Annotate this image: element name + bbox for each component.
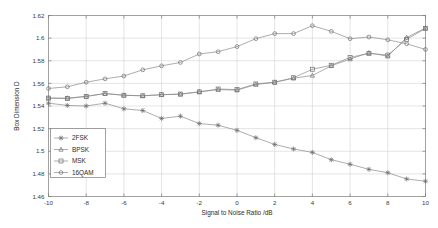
chart-legend[interactable]: 2FSKBPSKMSK16QAM <box>51 129 106 178</box>
x-tick-label: 2 <box>273 199 277 206</box>
y-tick-label: 1.62 <box>32 12 45 19</box>
x-tick-label: -4 <box>159 199 165 206</box>
legend-item-label: MSK <box>72 157 87 164</box>
figure-container: -10-8-6-4-20246810 1.461.481.51.521.541.… <box>0 0 438 228</box>
x-tick-label: -10 <box>44 199 54 206</box>
legend-item-label: BPSK <box>72 146 90 153</box>
x-tick-label: -8 <box>83 199 89 206</box>
y-axis-title: Box Dimension D <box>13 81 20 131</box>
line-chart: -10-8-6-4-20246810 1.461.481.51.521.541.… <box>0 0 438 228</box>
y-axis-tick-labels: 1.461.481.51.521.541.561.581.61.62 <box>32 12 45 200</box>
legend-item-label: 16QAM <box>72 169 94 177</box>
y-tick-label: 1.5 <box>36 147 45 154</box>
y-tick-label: 1.6 <box>36 34 45 41</box>
x-axis-title: Signal to Noise Ratio /dB <box>201 209 272 217</box>
legend-item-label: 2FSK <box>72 134 89 141</box>
x-tick-label: 10 <box>422 199 429 206</box>
x-tick-label: -6 <box>121 199 127 206</box>
y-tick-label: 1.56 <box>32 80 45 87</box>
y-tick-label: 1.46 <box>32 193 45 200</box>
y-tick-label: 1.54 <box>32 102 45 109</box>
x-tick-label: 4 <box>311 199 315 206</box>
y-tick-label: 1.48 <box>32 170 45 177</box>
x-tick-label: 0 <box>235 199 239 206</box>
x-tick-label: 8 <box>386 199 390 206</box>
x-axis-tick-labels: -10-8-6-4-20246810 <box>44 199 429 206</box>
x-tick-label: 6 <box>348 199 352 206</box>
x-tick-label: -2 <box>197 199 203 206</box>
y-tick-label: 1.58 <box>32 57 45 64</box>
y-tick-label: 1.52 <box>32 125 45 132</box>
